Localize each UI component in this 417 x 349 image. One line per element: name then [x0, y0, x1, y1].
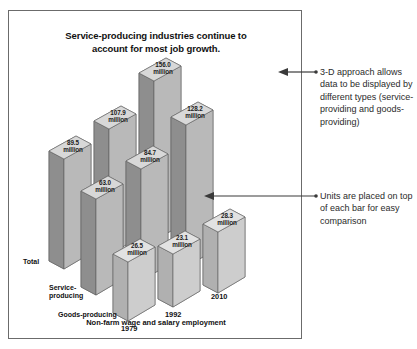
- value-unit: million: [162, 241, 202, 248]
- bar-value-goods-producing-2010: 28.3 million: [207, 212, 247, 227]
- bar-value-service-producing-1992: 84.7 million: [130, 149, 170, 164]
- chart-footnote: Non-farm wage and salary employment: [23, 318, 289, 327]
- value-number: 26.5: [117, 242, 157, 249]
- category-label-service-producing: Service- producing: [49, 284, 83, 301]
- bar-value-goods-producing-1992: 23.1 million: [162, 234, 202, 249]
- bar-value-total-1979: 89.5 million: [53, 139, 93, 154]
- value-number: 28.3: [207, 212, 247, 219]
- year-label-2010: 2010: [211, 292, 227, 301]
- annotation-units-on-top: Units are placed on top of each bar for …: [320, 190, 416, 227]
- value-unit: million: [207, 219, 247, 226]
- value-unit: million: [143, 68, 183, 75]
- chart-title: Service-producing industries continue to…: [23, 29, 289, 55]
- value-unit: million: [98, 116, 138, 123]
- value-number: 84.7: [130, 149, 170, 156]
- chart-title-line-1: Service-producing industries continue to: [23, 29, 289, 42]
- value-number: 63.0: [85, 179, 125, 186]
- chart-title-line-2: account for most job growth.: [23, 42, 289, 55]
- value-number: 23.1: [162, 234, 202, 241]
- bar-value-total-2010: 156.0 million: [143, 61, 183, 76]
- value-number: 89.5: [53, 139, 93, 146]
- annotation-3d-approach: 3-D approach allows data to be displayed…: [320, 66, 416, 128]
- value-unit: million: [85, 186, 125, 193]
- value-unit: million: [130, 156, 170, 163]
- chart-frame: Service-producing industries continue to…: [8, 10, 302, 339]
- bar-value-service-producing-2010: 128.2 million: [175, 105, 215, 120]
- value-unit: million: [117, 249, 157, 256]
- value-number: 128.2: [175, 105, 215, 112]
- category-label-total: Total: [23, 258, 39, 266]
- value-unit: million: [175, 112, 215, 119]
- value-number: 107.9: [98, 109, 138, 116]
- bar-value-total-1992: 107.9 million: [98, 109, 138, 124]
- bar-value-service-producing-1979: 63.0 million: [85, 179, 125, 194]
- screenshot-root: Service-producing industries continue to…: [0, 0, 417, 349]
- value-number: 156.0: [143, 61, 183, 68]
- bar-value-goods-producing-1979: 26.5 million: [117, 242, 157, 257]
- category-label-line-1: Service-: [49, 284, 83, 292]
- category-label-line-2: producing: [49, 292, 83, 300]
- value-unit: million: [53, 146, 93, 153]
